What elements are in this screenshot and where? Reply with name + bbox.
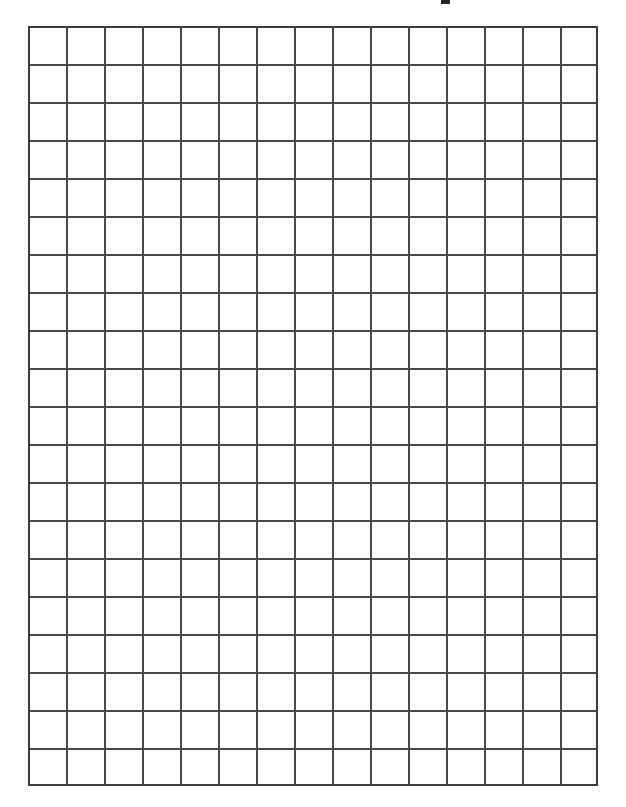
graph-paper-page: [0, 0, 626, 807]
grid-container: [28, 26, 598, 786]
ink-sliver: [441, 0, 450, 4]
grid-lines: [28, 26, 598, 786]
cropped-title-ink-mark: [441, 0, 450, 4]
